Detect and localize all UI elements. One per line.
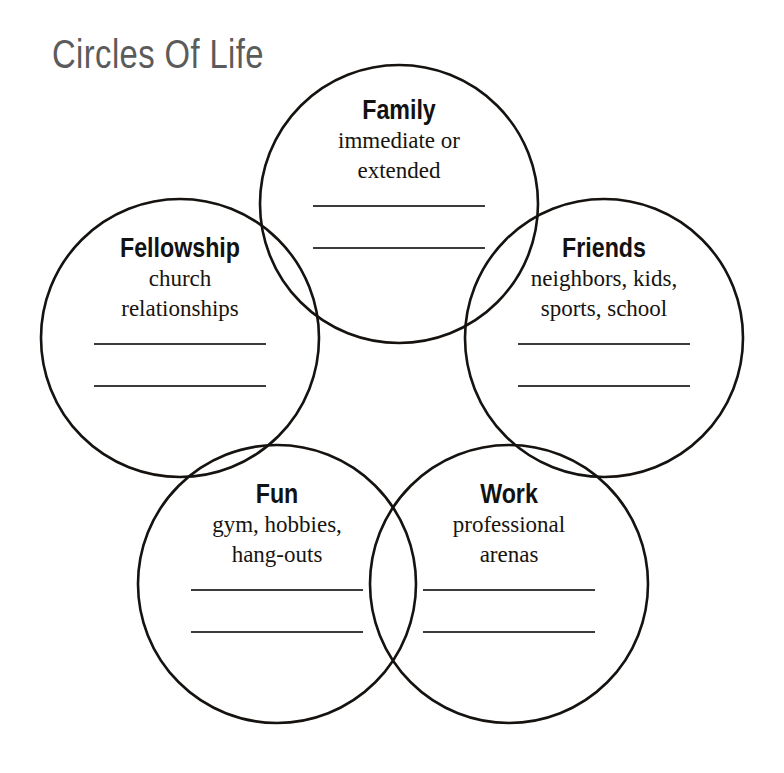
circle-outline-fun (138, 445, 416, 723)
worksheet-page: Circles Of Life Family immediate or exte… (0, 0, 784, 773)
circle-outline-family (260, 65, 538, 343)
circles-diagram (0, 0, 784, 773)
circle-outline-work (370, 445, 648, 723)
circle-outline-friends (465, 199, 743, 477)
circle-outline-fellowship (41, 199, 319, 477)
